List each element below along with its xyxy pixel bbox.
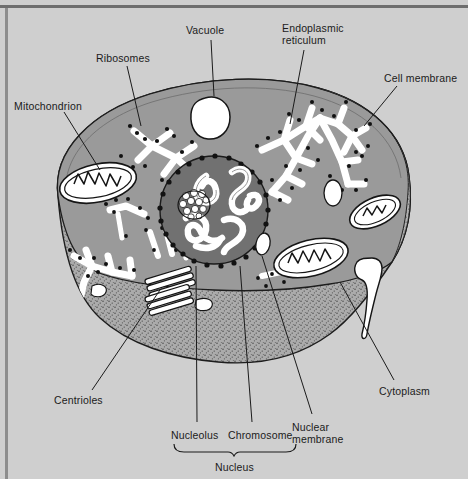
nucleus-brace [174,444,296,456]
label-ribosomes: Ribosomes [96,52,150,64]
label-nucleus: Nucleus [215,461,254,473]
cell-diagram-figure: Mitochondrion Ribosomes Vacuole Endoplas… [0,0,468,479]
label-endoplasmic-reticulum-line2: reticulum [282,34,326,46]
label-mitochondrion: Mitochondrion [14,100,82,112]
label-centrioles: Centrioles [54,394,103,406]
vacuole-large [191,97,230,139]
label-chromosome: Chromosome [228,429,293,441]
label-cell-membrane: Cell membrane [384,72,457,84]
vacuole-small-1 [324,180,342,206]
label-vacuole: Vacuole [186,24,224,36]
label-endoplasmic-reticulum-line1: Endoplasmic [282,22,344,34]
label-cytoplasm: Cytoplasm [379,385,430,397]
label-nuclear-membrane-line2: membrane [292,433,343,445]
label-nucleolus: Nucleolus [171,429,218,441]
label-nuclear-membrane-line1: Nuclear [292,421,329,433]
